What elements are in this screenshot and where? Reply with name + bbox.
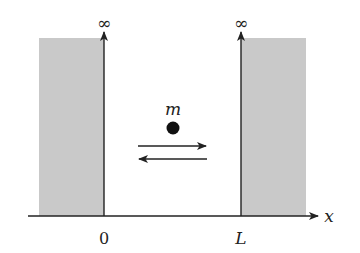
particle-dot	[167, 122, 180, 135]
infinite-square-well-diagram: ∞ ∞ m 0 L x	[0, 0, 360, 253]
right-infinity-label: ∞	[234, 13, 248, 33]
x-axis-label: x	[324, 206, 334, 226]
width-label: L	[234, 228, 246, 248]
mass-label: m	[165, 99, 181, 119]
origin-label: 0	[99, 229, 109, 248]
right-wall-region	[241, 38, 306, 216]
left-infinity-label: ∞	[97, 13, 111, 33]
left-wall-region	[39, 38, 104, 216]
